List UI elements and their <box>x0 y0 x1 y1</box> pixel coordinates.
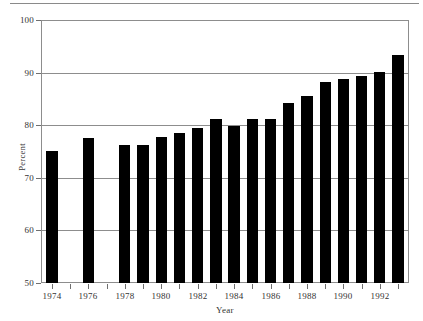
bar-1984 <box>228 126 239 283</box>
x-tick-label-1984: 1984 <box>225 291 244 301</box>
x-tick-label-1986: 1986 <box>262 291 281 301</box>
x-tick-label-1990: 1990 <box>334 291 353 301</box>
bar-series <box>41 20 409 283</box>
x-tick-label-1976: 1976 <box>79 291 98 301</box>
bar-1993 <box>392 55 403 283</box>
x-tick-label-1980: 1980 <box>152 291 171 301</box>
bar-1980 <box>156 137 167 283</box>
x-tick-1980 <box>161 284 162 289</box>
x-tick-1975 <box>70 284 71 289</box>
bar-1979 <box>137 145 148 283</box>
x-tick-1988 <box>307 284 308 289</box>
y-tick-label-100: 100 <box>20 16 34 25</box>
x-tick-1992 <box>380 284 381 289</box>
x-tick-1989 <box>325 284 326 289</box>
x-tick-1993 <box>398 284 399 289</box>
bar-1976 <box>83 138 94 283</box>
x-tick-label-1978: 1978 <box>116 291 135 301</box>
x-tick-1982 <box>198 284 199 289</box>
bar-1989 <box>320 82 331 283</box>
x-axis-ticks-and-labels: 1974197619781980198219841986198819901992 <box>0 283 423 321</box>
x-tick-1991 <box>362 284 363 289</box>
bar-chart-figure: 5060708090100 Percent 197419761978198019… <box>0 0 423 321</box>
x-tick-1977 <box>107 284 108 289</box>
bar-1992 <box>374 72 385 283</box>
x-tick-1986 <box>271 284 272 289</box>
bar-1983 <box>210 119 221 283</box>
x-tick-label-1992: 1992 <box>371 291 390 301</box>
x-axis-title: Year <box>41 305 409 315</box>
x-tick-1985 <box>252 284 253 289</box>
bar-1986 <box>265 119 276 283</box>
page-divider-rule <box>10 3 419 4</box>
x-tick-1981 <box>179 284 180 289</box>
x-tick-1983 <box>216 284 217 289</box>
y-tick-label-60: 60 <box>25 226 34 235</box>
x-tick-1987 <box>289 284 290 289</box>
bar-1981 <box>174 133 185 283</box>
x-tick-1976 <box>88 284 89 289</box>
x-tick-1990 <box>343 284 344 289</box>
bar-1991 <box>356 76 367 283</box>
x-tick-label-1974: 1974 <box>43 291 62 301</box>
bar-1974 <box>46 151 57 283</box>
y-axis-title: Percent <box>17 127 27 187</box>
x-tick-label-1988: 1988 <box>298 291 317 301</box>
bar-1978 <box>119 145 130 283</box>
y-tick-label-90: 90 <box>25 69 34 78</box>
x-tick-1984 <box>234 284 235 289</box>
bar-1985 <box>247 119 258 283</box>
x-tick-1979 <box>143 284 144 289</box>
x-tick-label-1982: 1982 <box>189 291 208 301</box>
x-tick-1978 <box>125 284 126 289</box>
bar-1987 <box>283 103 294 283</box>
bar-1988 <box>301 96 312 283</box>
bar-1990 <box>338 79 349 283</box>
bar-1982 <box>192 128 203 283</box>
x-tick-1974 <box>52 284 53 289</box>
